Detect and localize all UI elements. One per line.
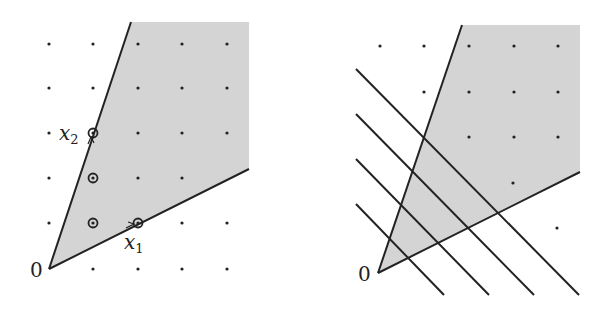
cone-region — [49, 22, 249, 269]
left-panel: 0 x1 x2 — [30, 22, 249, 282]
origin-label-right: 0 — [358, 262, 371, 286]
cone-region-right — [378, 25, 580, 273]
diagram-canvas: 0 x1 x2 0 — [0, 0, 613, 313]
right-panel: 0 — [356, 25, 580, 295]
x2-label: x2 — [59, 121, 79, 147]
origin-label-left: 0 — [30, 258, 43, 282]
x1-label: x1 — [124, 230, 144, 256]
